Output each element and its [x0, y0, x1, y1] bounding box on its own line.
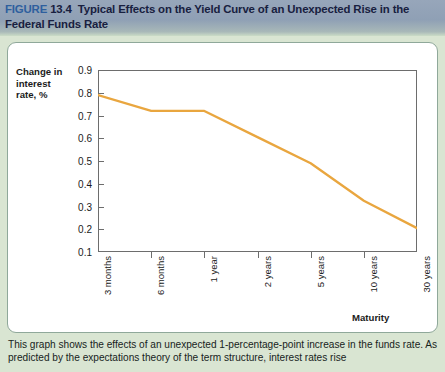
x-axis-tick-label: 5 years: [315, 256, 326, 287]
x-axis-title: Maturity: [352, 312, 389, 323]
figure-page: FIGURE 13.4 Typical Effects on the Yield…: [0, 0, 445, 372]
y-axis-tick-label: 0.2: [64, 224, 92, 235]
x-axis-tick-label: 1 year: [208, 256, 219, 282]
figure-caption: This graph shows the effects of an unexp…: [8, 339, 438, 364]
y-axis-tick-label: 0.5: [64, 156, 92, 167]
figure-number: 13.4: [50, 3, 72, 15]
data-series-line: [98, 95, 417, 228]
x-axis-tick-labels: 3 months6 months1 year2 years5 years10 y…: [98, 252, 417, 314]
figure-header-band: FIGURE 13.4 Typical Effects on the Yield…: [0, 0, 445, 36]
y-axis-tick-label: 0.3: [64, 201, 92, 212]
x-axis-tick-label: 30 years: [421, 256, 432, 292]
y-axis-tick-label: 0.6: [64, 133, 92, 144]
y-axis-tick-label: 0.8: [64, 87, 92, 98]
caption-line-1: This graph shows the effects of an unexp…: [8, 339, 400, 350]
x-axis-tick-label: 6 months: [155, 256, 166, 295]
y-axis-tick-label: 0.1: [64, 247, 92, 258]
y-axis-tick-label: 0.4: [64, 178, 92, 189]
y-axis-tick-labels: 0.90.80.70.60.50.40.30.20.1: [64, 70, 92, 252]
line-chart-plot: [98, 70, 417, 252]
x-axis-tick-label: 3 months: [102, 256, 113, 295]
x-axis-tick-label: 2 years: [262, 256, 273, 287]
y-axis-tick-label: 0.9: [64, 65, 92, 76]
figure-label: FIGURE: [5, 3, 47, 15]
y-axis-tick-label: 0.7: [64, 110, 92, 121]
x-axis-tick-label: 10 years: [368, 256, 379, 292]
figure-title: FIGURE 13.4 Typical Effects on the Yield…: [5, 2, 437, 32]
